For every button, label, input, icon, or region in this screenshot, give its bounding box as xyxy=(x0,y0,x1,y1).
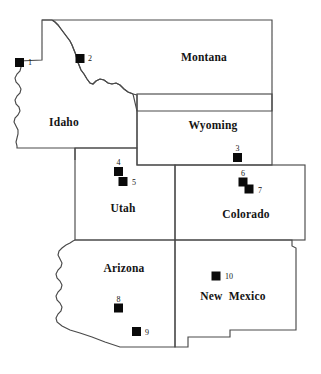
state-outline-utah xyxy=(75,148,175,240)
site-label-9: 9 xyxy=(145,328,149,337)
state-outline-colorado xyxy=(175,165,305,240)
state-label-colorado: Colorado xyxy=(222,208,270,220)
site-label-7: 7 xyxy=(258,186,262,195)
map-figure: Montana Idaho Wyoming Utah Colorado Ariz… xyxy=(0,0,321,374)
state-label-new-mexico: New Mexico xyxy=(200,290,265,302)
site-marker-7 xyxy=(245,185,254,194)
site-label-10: 10 xyxy=(225,272,233,281)
state-label-utah: Utah xyxy=(110,202,135,214)
site-marker-4 xyxy=(114,167,123,176)
state-label-idaho: Idaho xyxy=(49,116,79,128)
site-label-4: 4 xyxy=(117,158,121,167)
site-marker-2 xyxy=(76,54,85,63)
site-marker-9 xyxy=(132,327,141,336)
site-label-8: 8 xyxy=(117,295,121,304)
state-label-montana: Montana xyxy=(181,51,227,63)
state-label-wyoming: Wyoming xyxy=(189,119,238,132)
site-label-3: 3 xyxy=(236,144,240,153)
site-label-6: 6 xyxy=(241,169,245,178)
western-states-map: Montana Idaho Wyoming Utah Colorado Ariz… xyxy=(0,0,321,374)
site-marker-5 xyxy=(119,177,128,186)
site-marker-8 xyxy=(114,304,123,313)
site-label-5: 5 xyxy=(132,178,136,187)
state-outline-montana xyxy=(42,20,272,111)
state-outline-arizona xyxy=(56,240,175,347)
site-marker-3 xyxy=(233,153,242,162)
state-label-arizona: Arizona xyxy=(103,262,144,274)
site-marker-1 xyxy=(15,58,24,67)
site-label-2: 2 xyxy=(88,54,92,63)
site-marker-10 xyxy=(212,272,221,281)
state-outline-idaho xyxy=(14,20,137,160)
site-label-1: 1 xyxy=(28,58,32,67)
